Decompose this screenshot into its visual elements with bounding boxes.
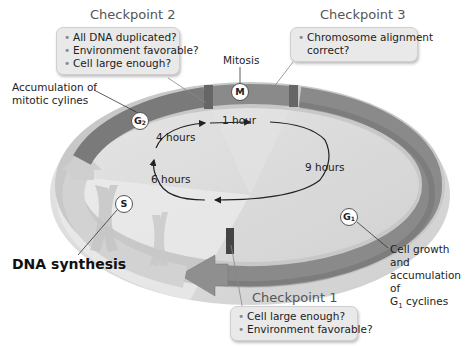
checkpoint-3-question: Chromosome alignment — [298, 31, 410, 44]
checkpoint-2-title: Checkpoint 2 — [90, 7, 176, 22]
checkpoint-1-question: Environment favorable? — [238, 323, 350, 336]
g2-description-line: Accumulation of — [12, 81, 97, 94]
g2-phase-symbol: G — [134, 115, 142, 126]
g1-phase-subscript: 1 — [351, 215, 355, 222]
checkpoint-2-gate — [204, 85, 213, 109]
g1-phase-marker: G1 — [340, 208, 358, 226]
dna-synthesis-label: DNA synthesis — [12, 256, 126, 272]
checkpoint-2-question: Cell large enough? — [64, 57, 172, 70]
checkpoint-1-question: Cell large enough? — [238, 310, 350, 323]
g2-phase-marker: G2 — [131, 112, 149, 130]
g1-description: Cell growth and accumulation of G1 cycli… — [390, 243, 471, 313]
duration-m: 1 hour — [222, 114, 256, 126]
g1-phase-symbol: G — [343, 211, 351, 222]
checkpoint-3-gate — [289, 85, 298, 107]
g1-description-line: G1 cyclines — [390, 295, 471, 313]
checkpoint-1-box: Cell large enough? Environment favorable… — [230, 306, 358, 341]
checkpoint-3-box: Chromosome alignment correct? — [290, 27, 418, 62]
m-phase-symbol: M — [235, 86, 244, 97]
m-phase-marker: M — [231, 83, 249, 101]
checkpoint-3-title: Checkpoint 3 — [320, 7, 406, 22]
mitosis-label: Mitosis — [223, 54, 259, 67]
checkpoint-2-box: All DNA duplicated? Environment favorabl… — [56, 27, 180, 75]
checkpoint-1-title: Checkpoint 1 — [252, 290, 338, 305]
duration-s: 6 hours — [151, 173, 191, 185]
s-phase-marker: S — [115, 195, 133, 213]
duration-g2: 4 hours — [156, 131, 196, 143]
g2-phase-subscript: 2 — [142, 119, 146, 126]
g2-description-line: mitotic cylines — [12, 94, 97, 107]
checkpoint-3-question-line2: correct? — [307, 44, 349, 56]
m-arc — [212, 94, 290, 96]
checkpoint-2-question: All DNA duplicated? — [64, 31, 172, 44]
s-phase-symbol: S — [121, 198, 128, 209]
g2-description: Accumulation of mitotic cylines — [12, 81, 97, 107]
checkpoint-3-question-cont: correct? — [298, 44, 410, 57]
duration-g1: 9 hours — [305, 161, 345, 173]
checkpoint-1-gate — [226, 228, 234, 254]
checkpoint-2-question: Environment favorable? — [64, 44, 172, 57]
g1-description-line: accumulation of — [390, 269, 471, 295]
g1-description-line: Cell growth and — [390, 243, 471, 269]
